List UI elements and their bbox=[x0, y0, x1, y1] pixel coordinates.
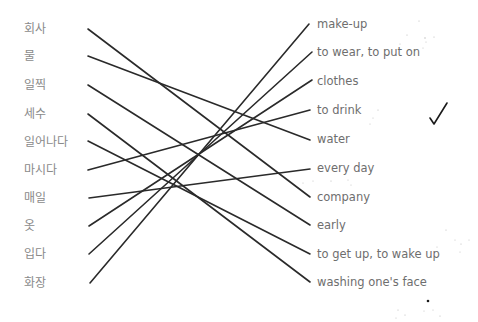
line-hoesa-company bbox=[88, 29, 310, 197]
line-mul-water bbox=[88, 56, 310, 140]
line-ireonada-get-up bbox=[88, 141, 310, 254]
check-mark-icon bbox=[430, 103, 447, 124]
ink-dot bbox=[427, 300, 430, 303]
speckle-noise bbox=[303, 20, 470, 318]
line-hwajang-make-up bbox=[90, 24, 309, 283]
line-maeil-every-day bbox=[89, 169, 310, 198]
matching-exercise: 회사 물 일찍 세수 일어나다 마시다 매일 옷 입다 화장 make-up t… bbox=[0, 0, 478, 322]
connection-lines bbox=[0, 0, 478, 322]
